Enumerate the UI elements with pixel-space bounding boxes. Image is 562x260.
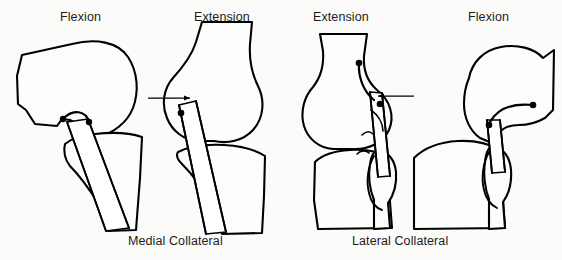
knee-diagram-svg [0,0,562,260]
panel-4-label: Flexion [468,10,509,24]
panel-lateral-flexion [414,46,554,229]
collateral-ligament-figure: Flexion Extension Extension Flexion Medi… [0,0,562,260]
caption-medial-collateral: Medial Collateral [128,234,223,248]
caption-lateral-collateral: Lateral Collateral [352,234,448,248]
femur-outline-medial-extension [164,22,263,142]
panel-3-label: Extension [313,10,369,24]
panel-lateral-extension [302,34,414,229]
panel-2-label: Extension [194,10,250,24]
panel-1-label: Flexion [60,10,101,24]
panel-medial-extension [148,22,265,234]
femoral-attachment-marker-extension [178,110,185,117]
femur-outline-lateral-flexion [464,46,554,143]
panel-medial-flexion [17,41,142,231]
